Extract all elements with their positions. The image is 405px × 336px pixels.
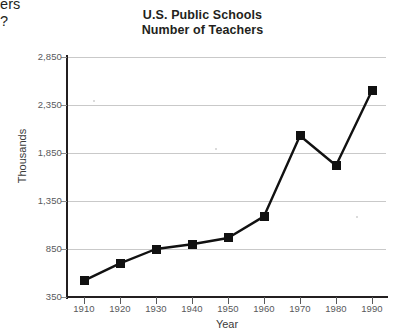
data-point-marker [260,212,269,221]
gridline [66,57,386,58]
data-point-marker [332,161,341,170]
y-tick-label: 850 [2,243,62,254]
y-tick-label: 2,850 [2,51,62,62]
x-tick-label: 1930 [136,303,176,314]
x-axis-line [66,296,388,298]
gridline [66,105,386,106]
gridline [66,201,386,202]
x-axis-label: Year [66,318,388,330]
x-tick-label: 1920 [100,303,140,314]
chart-title-line2: Number of Teachers [0,23,405,38]
gridline [66,153,386,154]
y-tick-label: 350 [2,291,62,302]
chart-title: U.S. Public Schools Number of Teachers [0,8,405,38]
x-tick-label: 1970 [280,303,320,314]
y-tick-label: 1,850 [2,147,62,158]
x-tick-label: 1960 [244,303,284,314]
data-point-marker [152,245,161,254]
data-point-marker [368,86,377,95]
gridline [66,249,386,250]
scan-speck [93,100,95,102]
plot-area [66,57,386,297]
y-tick-label: 2,350 [2,99,62,110]
scan-speck [215,148,217,150]
x-tick-label: 1990 [352,303,392,314]
data-point-marker [296,131,305,140]
chart-title-line1: U.S. Public Schools [143,8,262,22]
data-point-marker [116,259,125,268]
y-axis-line [66,55,68,299]
scan-speck [356,216,358,218]
data-point-marker [224,233,233,242]
y-tick-label: 1,350 [2,195,62,206]
data-point-marker [188,240,197,249]
x-tick-label: 1980 [316,303,356,314]
data-point-marker [80,276,89,285]
x-tick-label: 1950 [208,303,248,314]
x-tick-label: 1940 [172,303,212,314]
x-tick-label: 1910 [64,303,104,314]
